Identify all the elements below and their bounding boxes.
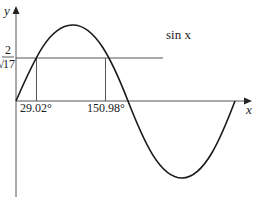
fraction-numerator: 2 xyxy=(5,43,11,57)
sine-chart: y x sin x 2 √ 17 29.02° 150.98° xyxy=(0,0,258,201)
y-axis-label: y xyxy=(2,3,10,18)
angle-label-2: 150.98° xyxy=(87,101,125,115)
fraction-denominator: 17 xyxy=(3,57,15,71)
x-axis-label: x xyxy=(245,102,252,117)
angle-label-1: 29.02° xyxy=(20,101,52,115)
curve-label: sin x xyxy=(166,27,191,42)
y-axis-arrow-icon xyxy=(13,6,20,14)
